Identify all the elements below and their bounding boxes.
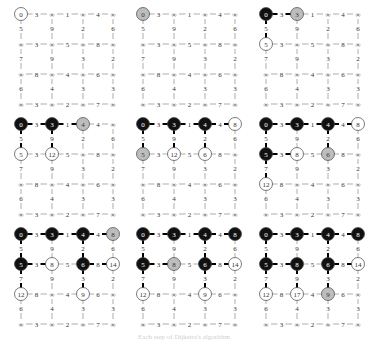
graph-node: ∞ (354, 100, 362, 109)
graph-node: 8 (352, 228, 365, 241)
edge-weight: 4 (311, 71, 315, 79)
svg-text:3: 3 (50, 121, 54, 129)
edge-weight: 1 (66, 231, 70, 239)
svg-text:∞: ∞ (295, 321, 300, 329)
edge-weight: 8 (96, 41, 100, 49)
edge-weight: 2 (311, 101, 315, 109)
svg-text:∞: ∞ (326, 321, 331, 329)
svg-text:∞: ∞ (50, 211, 55, 219)
svg-text:∞: ∞ (19, 181, 24, 189)
edge-weight: 2 (188, 211, 192, 219)
graph-node: ∞ (109, 70, 117, 79)
graph-node: ∞ (79, 210, 87, 219)
svg-text:∞: ∞ (356, 11, 361, 19)
edge-weight: 9 (50, 245, 54, 253)
edge-weight: 9 (295, 135, 299, 143)
graph-node: ∞ (170, 320, 178, 329)
edge-weight: 4 (295, 195, 299, 203)
graph-node: ∞ (324, 10, 332, 19)
dijkstra-diagram: 3143588463275926793264330∞∞∞∞∞∞∞∞∞∞∞∞∞∞∞… (0, 0, 368, 344)
svg-text:6: 6 (203, 151, 207, 159)
edge-vertical: 3 (203, 189, 207, 209)
edge-horizontal: 7 (333, 321, 353, 329)
edge-vertical: 7 (264, 269, 268, 289)
svg-text:12: 12 (140, 291, 148, 299)
svg-text:8: 8 (295, 261, 299, 269)
edge-vertical: 3 (111, 299, 115, 319)
edge-weight: 3 (35, 11, 39, 19)
svg-text:12: 12 (18, 291, 26, 299)
svg-text:∞: ∞ (233, 181, 238, 189)
graph-node: ∞ (354, 210, 362, 219)
edge-vertical: 9 (172, 239, 176, 259)
edge-weight: 7 (96, 211, 100, 219)
svg-text:∞: ∞ (295, 71, 300, 79)
edge-horizontal: 3 (26, 261, 47, 269)
edge-weight: 5 (264, 25, 268, 33)
edge-vertical: 2 (326, 239, 330, 259)
graph-node: ∞ (324, 100, 332, 109)
edge-weight: 4 (188, 291, 192, 299)
graph-node: ∞ (231, 100, 239, 109)
graph-node: 5 (15, 258, 28, 271)
svg-text:∞: ∞ (19, 321, 24, 329)
edge-horizontal: 2 (302, 101, 323, 109)
edge-weight: 3 (35, 151, 39, 159)
edge-weight: 2 (311, 211, 315, 219)
edge-weight: 3 (326, 305, 330, 313)
edge-horizontal: 6 (88, 291, 108, 299)
edge-horizontal: 8 (271, 181, 292, 189)
svg-text:∞: ∞ (111, 151, 116, 159)
svg-text:4: 4 (81, 121, 85, 129)
edge-horizontal: 4 (302, 291, 323, 299)
edge-weight: 8 (280, 181, 284, 189)
graph-node: 4 (77, 118, 90, 131)
edge-weight: 9 (295, 55, 299, 63)
graph-node: ∞ (231, 180, 239, 189)
graph-node: ∞ (324, 320, 332, 329)
edge-weight: 2 (311, 321, 315, 329)
edge-weight: 6 (341, 181, 345, 189)
edge-vertical: 4 (50, 299, 54, 319)
graph-node: ∞ (293, 180, 301, 189)
edge-vertical: 4 (172, 79, 176, 99)
graph-node: ∞ (201, 210, 209, 219)
svg-text:∞: ∞ (81, 211, 86, 219)
edge-weight: 2 (326, 245, 330, 253)
svg-text:∞: ∞ (141, 321, 146, 329)
edge-weight: 3 (356, 85, 360, 93)
edge-weight: 5 (311, 261, 315, 269)
graph-node: ∞ (17, 70, 25, 79)
edge-vertical: 5 (141, 129, 145, 149)
edge-horizontal: 7 (88, 101, 108, 109)
graph-node: ∞ (201, 180, 209, 189)
graph-node: ∞ (354, 150, 362, 159)
edge-weight: 3 (233, 85, 237, 93)
edge-vertical: 2 (233, 269, 237, 289)
svg-text:∞: ∞ (141, 41, 146, 49)
svg-text:∞: ∞ (81, 71, 86, 79)
graph-node: ∞ (262, 70, 270, 79)
edge-horizontal: 4 (333, 231, 353, 239)
edge-horizontal: 7 (88, 321, 108, 329)
svg-text:∞: ∞ (172, 211, 177, 219)
graph-node: 5 (15, 148, 28, 161)
edge-horizontal: 1 (179, 231, 200, 239)
edge-horizontal: 2 (302, 321, 323, 329)
edge-weight: 5 (188, 41, 192, 49)
edge-weight: 3 (233, 195, 237, 203)
edge-weight: 3 (326, 165, 330, 173)
edge-weight: 3 (35, 321, 39, 329)
graph-node: 8 (352, 118, 365, 131)
svg-text:∞: ∞ (326, 41, 331, 49)
svg-text:5: 5 (141, 261, 145, 269)
edge-vertical: 9 (172, 159, 176, 179)
graph-node: ∞ (354, 180, 362, 189)
edge-vertical: 6 (264, 79, 268, 99)
edge-weight: 3 (280, 121, 284, 129)
graph-node: ∞ (139, 210, 147, 219)
edge-vertical: 9 (295, 19, 299, 39)
graph-node: ∞ (293, 210, 301, 219)
edge-weight: 6 (218, 71, 222, 79)
edge-weight: 3 (280, 101, 284, 109)
